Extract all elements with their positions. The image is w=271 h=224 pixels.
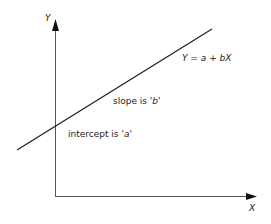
slope-text: slope is ': [113, 96, 152, 106]
y-axis-arrow-icon: [52, 19, 59, 31]
y-axis-label: Y: [45, 14, 51, 23]
intercept-text: intercept is ': [68, 129, 124, 139]
slope-quote: ': [158, 96, 160, 106]
intercept-label: intercept is 'a': [68, 130, 132, 139]
regression-diagram: [0, 0, 271, 224]
slope-label: slope is 'b': [113, 97, 161, 106]
equation-label: Y = a + bX: [182, 54, 231, 63]
x-axis-label: X: [249, 204, 255, 213]
x-axis-arrow-icon: [246, 193, 257, 200]
intercept-quote: ': [129, 129, 131, 139]
